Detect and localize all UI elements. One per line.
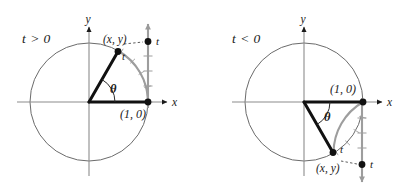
arc-label-right: t (340, 143, 344, 155)
panel-left: t > 0 x y (17, 13, 178, 176)
condition-label-right: t < 0 (232, 31, 261, 46)
unit-circle-figure: t > 0 x y (0, 0, 399, 193)
number-line-dot-left (145, 38, 152, 45)
intercept-dot-left (145, 99, 152, 106)
intercept-label-left: (1, 0) (120, 107, 146, 121)
theta-label-left: θ (110, 82, 117, 96)
terminal-point-dot-left (115, 48, 122, 55)
x-axis-label-left: x (171, 96, 178, 108)
point-label-left: (x, y) (103, 33, 127, 46)
theta-label-right: θ (324, 110, 331, 124)
intercept-label-right: (1, 0) (330, 82, 356, 96)
number-line-label-left: t (156, 35, 160, 47)
number-line-dot-right (359, 161, 366, 168)
terminal-point-dot-right (330, 149, 337, 156)
panel-right: t < 0 x y θ (x, y) t t (232, 13, 393, 182)
figure-canvas: t > 0 x y (0, 0, 399, 193)
y-axis-label-left: y (85, 13, 92, 26)
dashed-connector-right (341, 161, 357, 164)
condition-label-left: t > 0 (22, 31, 51, 46)
dashed-connector-left (124, 42, 143, 44)
y-axis-label-right: y (300, 13, 307, 26)
x-axis-label-right: x (386, 96, 393, 108)
arc-length-right (334, 102, 364, 153)
number-line-label-right: t (370, 158, 374, 170)
intercept-dot-right (360, 99, 367, 106)
point-label-right: (x, y) (316, 162, 340, 175)
